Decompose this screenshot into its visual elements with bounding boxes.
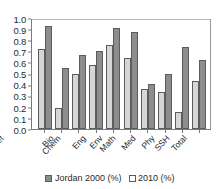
legend-item-series-1: 2010 (%): [129, 174, 175, 183]
y-axis-tick-label: 0.1: [13, 114, 28, 124]
y-axis-tick-label: 0.7: [13, 48, 28, 58]
bar-group: [70, 19, 87, 129]
y-axis: 1.00.90.80.70.60.50.40.30.20.10.0: [0, 0, 31, 131]
x-axis-label-cell: Total: [191, 133, 208, 173]
bar-group: [156, 19, 173, 129]
bar-chart: 1.00.90.80.70.60.50.40.30.20.10.0 Agri a…: [0, 0, 220, 189]
y-axis-tick: 0.5: [0, 69, 31, 80]
bar-group: [53, 19, 70, 129]
bar-group: [174, 19, 191, 129]
y-axis-tick: 0.4: [0, 80, 31, 91]
bar: [79, 55, 86, 129]
y-axis-tick: 0.6: [0, 58, 31, 69]
bar: [96, 51, 103, 129]
bar: [72, 74, 79, 130]
bar: [38, 49, 45, 129]
legend-swatch-icon-series-1: [129, 175, 136, 182]
bar-group: [191, 19, 208, 129]
y-axis-tick: 0.9: [0, 25, 31, 36]
bar: [89, 65, 96, 129]
x-axis-label: Agri and vet: [0, 134, 5, 173]
bar: [106, 45, 113, 129]
bar: [113, 28, 120, 129]
bar: [175, 112, 182, 129]
bar-group: [36, 19, 53, 129]
y-axis-tick: 0.0: [0, 125, 31, 136]
bar: [141, 89, 148, 129]
bar: [192, 81, 199, 129]
y-axis-tick: 0.7: [0, 47, 31, 58]
bar-groups: [32, 19, 211, 129]
y-axis-tick: 0.8: [0, 36, 31, 47]
legend-item-series-0: Jordan 2000 (%): [45, 174, 121, 183]
y-axis-tick: 1.0: [0, 14, 31, 25]
y-axis-tick: 0.2: [0, 102, 31, 113]
bar: [131, 32, 138, 129]
y-axis-tick-label: 0.5: [13, 70, 28, 80]
bar-group: [122, 19, 139, 129]
legend-label-series-0: Jordan 2000 (%): [55, 174, 122, 183]
bar: [165, 74, 172, 130]
bar-group: [105, 19, 122, 129]
y-axis-tick-label: 0.6: [13, 59, 28, 69]
bar: [62, 68, 69, 129]
y-axis-tick-label: 0.4: [13, 81, 28, 91]
bar: [199, 60, 206, 129]
y-axis-tick-label: 1.0: [13, 14, 28, 24]
x-axis-labels: Agri and vetBioChemEngEnvMathMedPhySSHTo…: [31, 133, 211, 173]
y-axis-tick-label: 0.2: [13, 103, 28, 113]
bar: [45, 26, 52, 129]
bar: [55, 108, 62, 129]
plot-area: [31, 19, 211, 130]
y-axis-tick-label: 0.9: [13, 25, 28, 35]
bar: [158, 92, 165, 129]
y-axis-tick-label: 0.3: [13, 92, 28, 102]
legend-label-series-1: 2010 (%): [138, 174, 175, 183]
y-axis-tick-label: 0.0: [13, 125, 28, 135]
legend-swatch-icon-series-0: [45, 175, 52, 182]
y-axis-tick: 0.3: [0, 91, 31, 102]
bar: [182, 47, 189, 129]
bar: [148, 84, 155, 130]
bar: [124, 58, 131, 129]
bar-group: [139, 19, 156, 129]
bar-group: [88, 19, 105, 129]
y-axis-tick: 0.1: [0, 113, 31, 124]
chart-legend: Jordan 2000 (%) 2010 (%): [0, 171, 220, 185]
y-axis-tick-label: 0.8: [13, 36, 28, 46]
